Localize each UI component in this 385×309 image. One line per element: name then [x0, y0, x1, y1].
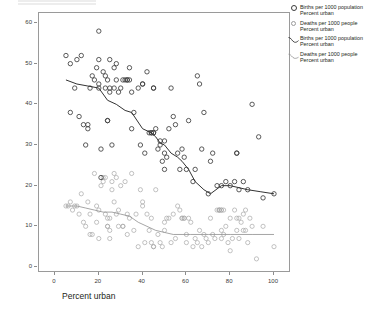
births-scatter-group — [64, 29, 276, 200]
x-tick-mark — [229, 272, 230, 275]
data-point — [182, 155, 186, 159]
data-point — [134, 212, 138, 216]
data-point — [99, 147, 103, 151]
data-point — [173, 236, 177, 240]
data-point — [171, 114, 175, 118]
data-point — [103, 212, 107, 216]
y-tick-mark — [34, 144, 37, 145]
y-tick-label: 50 — [14, 60, 32, 66]
legend-item-births-line[interactable]: Births per 1000 population Percent urban — [287, 35, 385, 48]
data-point — [105, 224, 109, 228]
data-point — [176, 204, 180, 208]
y-tick-label: 20 — [14, 182, 32, 188]
data-point — [208, 159, 212, 163]
data-point — [250, 102, 254, 106]
data-point — [141, 204, 145, 208]
data-point — [206, 241, 210, 245]
data-point — [97, 29, 101, 33]
plot-area — [38, 12, 290, 272]
data-point — [210, 151, 214, 155]
curve-icon — [287, 35, 300, 44]
data-point — [158, 241, 162, 245]
data-point — [167, 127, 171, 131]
data-point — [178, 208, 182, 212]
data-point — [112, 200, 116, 204]
legend-item-label: Deaths per 1000 people Percent urban — [300, 51, 358, 63]
data-point — [256, 135, 260, 139]
data-point — [119, 86, 123, 90]
open-circle-icon — [287, 4, 300, 11]
data-point — [94, 66, 98, 70]
legend-line-2: Percent urban — [300, 57, 358, 63]
data-point — [97, 57, 101, 61]
data-point — [145, 212, 149, 216]
data-point — [119, 184, 123, 188]
data-point — [110, 180, 114, 184]
data-point — [246, 241, 250, 245]
data-point — [97, 236, 101, 240]
legend: Births per 1000 population Percent urban… — [287, 4, 385, 66]
data-point — [143, 241, 147, 245]
data-point — [140, 82, 144, 86]
data-point — [77, 212, 81, 216]
data-point — [197, 228, 201, 232]
data-point — [169, 86, 173, 90]
data-point — [79, 53, 83, 57]
data-point — [250, 224, 254, 228]
data-point — [169, 241, 173, 245]
legend-item-births-points[interactable]: Births per 1000 population Percent urban — [287, 4, 385, 17]
data-point — [108, 236, 112, 240]
x-tick-label: 80 — [226, 278, 233, 284]
data-point — [193, 236, 197, 240]
y-tick-label: 30 — [14, 141, 32, 147]
y-tick-label: 60 — [14, 19, 32, 25]
data-point — [189, 220, 193, 224]
data-point — [141, 200, 145, 204]
y-tick-mark — [34, 185, 37, 186]
data-point — [232, 179, 236, 183]
legend-line-2: Percent urban — [300, 41, 363, 47]
data-point — [151, 245, 155, 249]
data-point — [241, 179, 245, 183]
legend-item-deaths-line[interactable]: Deaths per 1000 people Percent urban — [287, 51, 385, 64]
y-tick-label: 10 — [14, 222, 32, 228]
data-point — [121, 224, 125, 228]
data-point — [164, 155, 168, 159]
data-point — [83, 143, 87, 147]
data-point — [114, 175, 118, 179]
data-point — [219, 228, 223, 232]
data-point — [103, 86, 107, 90]
data-point — [204, 236, 208, 240]
data-point — [92, 171, 96, 175]
data-point — [239, 220, 243, 224]
data-point — [160, 245, 164, 249]
legend-item-label: Births per 1000 population Percent urban — [300, 35, 363, 47]
legend-item-deaths-points[interactable]: Deaths per 1000 people Percent urban — [287, 20, 385, 33]
data-point — [254, 257, 258, 261]
data-point — [224, 224, 228, 228]
data-point — [235, 151, 239, 155]
data-point — [105, 118, 109, 122]
x-tick-label: 40 — [138, 278, 145, 284]
data-point — [200, 147, 204, 151]
data-point — [195, 74, 199, 78]
data-point — [136, 86, 140, 90]
data-point — [136, 245, 140, 249]
data-point — [272, 245, 276, 249]
data-point — [110, 188, 114, 192]
legend-item-label: Births per 1000 population Percent urban — [300, 4, 363, 16]
x-tick-label: 20 — [94, 278, 101, 284]
data-point — [114, 78, 118, 82]
data-point — [123, 180, 127, 184]
legend-line-1: Deaths per 1000 people — [300, 51, 358, 57]
plot-canvas — [39, 13, 291, 273]
data-point — [191, 245, 195, 249]
data-point — [86, 200, 90, 204]
data-point — [213, 236, 217, 240]
data-point — [64, 53, 68, 57]
data-point — [108, 57, 112, 61]
chart-root: Rate per 1000 0102030405060 020406080100… — [0, 0, 385, 309]
data-point — [88, 212, 92, 216]
x-tick-mark — [98, 272, 99, 275]
data-point — [68, 110, 72, 114]
